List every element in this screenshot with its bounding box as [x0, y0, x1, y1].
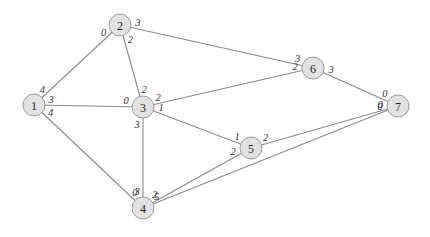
node-label: 5: [248, 142, 254, 156]
edge-weight-5-7-at-5: 2: [263, 132, 269, 143]
edge-1-4: [34, 105, 143, 208]
edge-weight-3-5-at-5: 1: [235, 131, 240, 142]
node-5: 5: [240, 137, 262, 159]
edge-weight-2-3-at-3: 2: [142, 84, 148, 95]
edge-weight-6-7-at-6: 3: [327, 64, 333, 75]
edge-6-7: [313, 68, 398, 106]
edges-layer: [34, 25, 398, 208]
edge-weight-1-4-at-1: 4: [48, 107, 54, 118]
node-6: 6: [302, 57, 324, 79]
node-3: 3: [132, 96, 154, 118]
edge-weight-3-4-at-4: 3: [133, 186, 139, 197]
edge-labels-layer: 403040223322113322205030: [40, 17, 389, 201]
edge-3-6: [143, 68, 313, 107]
edge-weight-3-5-at-3: 1: [158, 102, 163, 113]
node-2: 2: [109, 14, 131, 36]
edge-weight-1-2-at-2: 0: [101, 27, 107, 38]
nodes-layer: 1234567: [23, 14, 409, 219]
edge-weight-2-3-at-2: 2: [128, 34, 134, 45]
node-label: 3: [140, 101, 146, 115]
edge-2-6: [120, 25, 313, 68]
node-4: 4: [132, 197, 154, 219]
edge-weight-2-6-at-2: 3: [134, 17, 140, 28]
edge-1-2: [34, 25, 120, 105]
edge-weight-1-3-at-1: 3: [47, 94, 53, 105]
edge-weight-4-7-at-7: 0: [377, 101, 383, 112]
edge-weight-6-7-at-7: 0: [382, 88, 388, 99]
graph-diagram: 403040223322113322205030 1234567: [0, 0, 430, 237]
edge-weight-3-6-at-6: 2: [292, 61, 298, 72]
node-label: 1: [31, 99, 37, 113]
node-label: 7: [395, 100, 401, 114]
edge-weight-1-2-at-1: 4: [40, 84, 46, 95]
node-label: 2: [117, 19, 123, 33]
edge-weight-4-7-at-4: 5: [154, 191, 159, 202]
node-label: 6: [310, 62, 316, 76]
edge-5-7: [251, 106, 398, 148]
edge-weight-3-4-at-3: 3: [133, 119, 139, 130]
node-7: 7: [387, 95, 409, 117]
edge-weight-4-5-at-5: 2: [231, 146, 237, 157]
edge-weight-1-3-at-3: 0: [123, 95, 129, 106]
node-1: 1: [23, 94, 45, 116]
node-label: 4: [140, 202, 146, 216]
